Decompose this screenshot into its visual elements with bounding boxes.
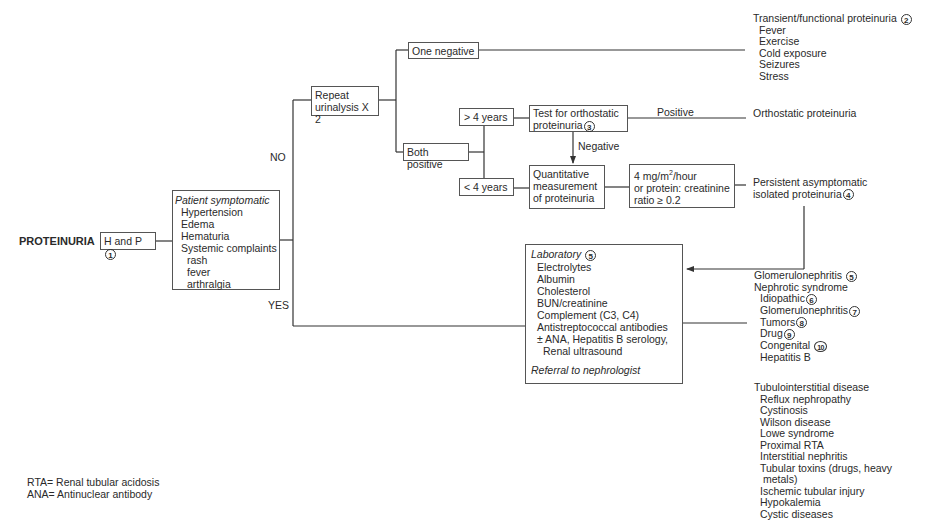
both-positive-label: Both positive: [407, 146, 443, 170]
patient-symptomatic-box: Patient symptomatic Hypertension Edema H…: [172, 190, 280, 290]
laboratory-title: Laboratory: [531, 248, 581, 260]
tubular-item: Lowe syndrome: [754, 428, 892, 440]
orthostatic-test-line2: proteinuria: [533, 119, 583, 131]
threshold-box: 4 mg/m2/hour or protein: creatinine rati…: [629, 164, 735, 208]
repeat-line1: Repeat: [315, 89, 375, 101]
lab-item: Antistreptococcal antibodies: [531, 321, 677, 333]
quantitative-line1: Quantitative: [533, 168, 601, 180]
branch-no-label: NO: [270, 152, 286, 164]
history-label: H and P: [104, 235, 142, 247]
symptom-item: Systemic complaints: [175, 242, 277, 254]
lab-item: Cholesterol: [531, 285, 677, 297]
negative-label: Negative: [578, 141, 619, 153]
nephrotic-item: Idiopathic: [760, 292, 805, 304]
symptom-item: Hypertension: [175, 206, 277, 218]
symptom-subitem: arthralgia: [175, 278, 277, 290]
diagnosis-glomerulonephritis: Glomerulonephritis: [754, 269, 842, 281]
threshold-line1-pre: 4 mg/m: [634, 170, 669, 182]
symptom-subitem: rash: [175, 254, 277, 266]
lab-item: Renal ultrasound: [531, 345, 677, 357]
nephrotic-item: Glomerulonephritis: [760, 304, 848, 316]
symptom-item: Hematuria: [175, 230, 277, 242]
transient-title: Transient/functional proteinuria: [753, 12, 897, 24]
nephrotic-item: Drug: [760, 327, 783, 339]
note-number-icon: 7: [849, 306, 860, 317]
symptomatic-title: Patient symptomatic: [175, 194, 277, 206]
threshold-line2: or protein: creatinine: [634, 182, 730, 194]
persistent-line2: isolated proteinuria: [753, 188, 842, 200]
age-over-label: > 4 years: [464, 111, 507, 123]
one-negative-label: One negative: [412, 45, 474, 57]
threshold-line3: ratio ≥ 0.2: [634, 194, 730, 206]
one-negative-box: One negative: [408, 42, 479, 59]
transient-item: Exercise: [753, 36, 912, 48]
abbreviation-legend: RTA= Renal tubular acidosis ANA= Antinuc…: [27, 477, 159, 500]
symptom-subitem: fever: [175, 266, 277, 278]
legend-rta: RTA= Renal tubular acidosis: [27, 477, 159, 489]
quantitative-line3: of proteinuria: [533, 192, 601, 204]
tubular-item: Cystinosis: [754, 405, 892, 417]
age-under-label: < 4 years: [464, 181, 507, 193]
transient-block: Transient/functional proteinuria 2 Fever…: [753, 13, 912, 82]
transient-item: Seizures: [753, 59, 912, 71]
symptom-item: Edema: [175, 218, 277, 230]
note-number-icon: 1: [105, 249, 116, 260]
branch-yes-label: YES: [268, 300, 289, 312]
laboratory-box: Laboratory 5 Electrolytes Albumin Choles…: [525, 244, 683, 384]
note-number-icon: 3: [584, 121, 595, 132]
orthostatic-result: Orthostatic proteinuria: [753, 108, 856, 120]
tubular-item: Hypokalemia: [754, 497, 892, 509]
nephrotic-item: Tumors: [760, 316, 795, 328]
repeat-line2: urinalysis X 2: [315, 101, 375, 125]
positive-label: Positive: [657, 107, 694, 119]
quantitative-measurement-box: Quantitative measurement of proteinuria: [529, 165, 605, 209]
history-physical-box: H and P1: [100, 232, 156, 250]
age-under-4-box: < 4 years: [459, 178, 514, 196]
referral-note: Referral to nephrologist: [531, 364, 677, 376]
lab-item: Albumin: [531, 273, 677, 285]
tubular-item: metals): [754, 474, 892, 486]
orthostatic-test-line1: Test for orthostatic: [533, 107, 624, 119]
tubulointerstitial-diagnoses: Tubulointerstitial disease Reflux nephro…: [754, 382, 892, 520]
root-title: PROTEINURIA: [19, 236, 95, 248]
persistent-block: Persistent asymptomatic isolated protein…: [753, 177, 867, 200]
transient-item: Stress: [753, 71, 912, 83]
legend-ana: ANA= Antinuclear antibody: [27, 489, 159, 501]
quantitative-line2: measurement: [533, 180, 601, 192]
note-number-icon: 8: [796, 317, 807, 328]
note-number-icon: 4: [843, 189, 854, 200]
nephrotic-item: Hepatitis B: [754, 352, 860, 364]
repeat-urinalysis-box: Repeat urinalysis X 2: [311, 86, 379, 116]
lab-item: ± ANA, Hepatitis B serology,: [531, 333, 677, 345]
tubular-item: Interstitial nephritis: [754, 451, 892, 463]
note-number-icon: 10: [814, 341, 827, 352]
orthostatic-test-box: Test for orthostatic proteinuria3: [529, 105, 628, 132]
threshold-line1-post: /hour: [673, 170, 697, 182]
nephrotic-item: Congenital: [760, 339, 810, 351]
both-positive-box: Both positive: [403, 143, 469, 161]
tubular-item: Cystic diseases: [754, 509, 892, 521]
lab-item: Electrolytes: [531, 261, 677, 273]
diagnosis-tubulointerstitial: Tubulointerstitial disease: [754, 382, 892, 394]
note-number-icon: 5: [585, 250, 596, 261]
note-number-icon: 2: [901, 14, 912, 25]
lab-item: Complement (C3, C4): [531, 309, 677, 321]
glomerular-diagnoses: Glomerulonephritis 5 Nephrotic syndrome …: [754, 270, 860, 363]
lab-item: BUN/creatinine: [531, 297, 677, 309]
age-over-4-box: > 4 years: [459, 108, 514, 126]
